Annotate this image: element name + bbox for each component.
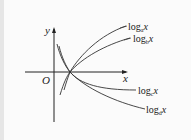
x-axis	[25, 70, 128, 74]
label-log-d: logdx	[146, 104, 167, 116]
label-log-b: logbx	[133, 33, 154, 45]
y-axis-arrow-icon	[52, 27, 56, 33]
x-axis-label: x	[122, 72, 128, 84]
svg-text:logcx: logcx	[138, 85, 158, 97]
curve-log-a	[60, 26, 126, 95]
curve-log-b	[64, 38, 130, 90]
label-log-c: logcx	[138, 85, 158, 97]
y-axis	[52, 27, 56, 122]
label-log-a: logax	[128, 21, 148, 33]
y-axis-label: y	[44, 24, 50, 36]
curve-log-d	[57, 44, 145, 109]
log-graph: y O x logax logbx logcx logdx	[0, 0, 191, 140]
svg-text:logax: logax	[128, 21, 148, 33]
svg-text:logbx: logbx	[133, 33, 154, 45]
svg-text:logdx: logdx	[146, 104, 167, 116]
origin-label: O	[42, 74, 50, 86]
figure: y O x logax logbx logcx logdx	[0, 0, 191, 140]
